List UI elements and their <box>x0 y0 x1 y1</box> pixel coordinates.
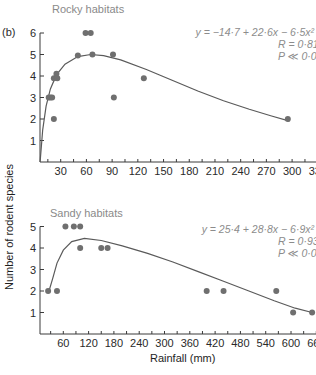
figure: (b) Rocky habitats y = −14·7 + 22·6x − 6… <box>0 0 316 375</box>
x-tick-label: 300 <box>283 165 301 177</box>
data-point <box>105 245 111 251</box>
x-tick-label: 540 <box>257 337 275 349</box>
y-tick-label: 2 <box>30 285 36 297</box>
rocky-p-value: P ≪ 0·01 <box>278 50 316 62</box>
y-tick-label: 5 <box>30 221 36 233</box>
sandy-fit-curve <box>49 238 312 312</box>
data-point <box>141 75 147 81</box>
sandy-axes: 1234560120180240300360420480540600660 <box>30 221 316 350</box>
sandy-data-points <box>45 224 315 316</box>
rocky-title: Rocky habitats <box>52 3 125 15</box>
x-tick-label: 240 <box>232 165 250 177</box>
y-tick-label: 3 <box>30 264 36 276</box>
data-point <box>71 224 77 230</box>
rocky-fit-curve <box>40 55 289 163</box>
data-point <box>51 116 57 122</box>
x-tick-label: 120 <box>129 165 147 177</box>
y-tick-label: 4 <box>30 242 36 254</box>
x-tick-label: 660 <box>307 337 316 349</box>
x-tick-label: 60 <box>57 337 69 349</box>
y-tick-label: 1 <box>30 307 36 319</box>
y-tick-label: 3 <box>30 92 36 104</box>
y-axis-title: Number of rodent species <box>3 164 15 290</box>
data-point <box>83 30 89 36</box>
data-point <box>309 310 315 316</box>
x-tick-label: 180 <box>105 337 123 349</box>
sandy-equation: y = 25·4 + 28·8x − 6·9x² <box>201 223 315 235</box>
y-tick-label: 4 <box>30 70 36 82</box>
data-point <box>89 52 95 58</box>
sandy-p-value: P ≪ 0·01 <box>278 247 316 259</box>
data-point <box>49 95 55 101</box>
data-point <box>62 224 68 230</box>
x-tick-label: 180 <box>180 165 198 177</box>
data-point <box>221 288 227 294</box>
x-axis-title: Rainfall (mm) <box>150 352 215 364</box>
rocky-data-points <box>46 30 291 122</box>
x-tick-label: 240 <box>130 337 148 349</box>
x-tick-label: 480 <box>231 337 249 349</box>
x-tick-label: 60 <box>80 165 92 177</box>
data-point <box>77 224 83 230</box>
x-tick-label: 420 <box>206 337 224 349</box>
x-tick-label: 360 <box>181 337 199 349</box>
rocky-axes: 123456306090120150180210240270300330 <box>30 27 316 177</box>
data-point <box>54 288 60 294</box>
x-tick-label: 120 <box>79 337 97 349</box>
y-tick-label: 6 <box>30 27 36 39</box>
x-tick-label: 600 <box>282 337 300 349</box>
data-point <box>204 288 210 294</box>
panel-label: (b) <box>2 26 15 38</box>
data-point <box>285 116 291 122</box>
data-point <box>111 95 117 101</box>
rocky-habitats-panel: Rocky habitats y = −14·7 + 22·6x − 6·5x²… <box>30 3 316 177</box>
x-tick-label: 150 <box>154 165 172 177</box>
data-point <box>98 245 104 251</box>
rocky-equation: y = −14·7 + 22·6x − 6·5x² <box>195 26 315 38</box>
x-tick-label: 30 <box>55 165 67 177</box>
y-tick-label: 2 <box>30 113 36 125</box>
x-tick-label: 210 <box>206 165 224 177</box>
x-tick-label: 90 <box>106 165 118 177</box>
rocky-r-value: R = 0·81 <box>278 38 316 50</box>
data-point <box>290 310 296 316</box>
data-point <box>75 53 81 59</box>
x-tick-label: 270 <box>257 165 275 177</box>
y-tick-label: 1 <box>30 135 36 147</box>
data-point <box>88 30 94 36</box>
sandy-title: Sandy habitats <box>50 207 123 219</box>
sandy-r-value: R = 0·93 <box>278 235 316 247</box>
x-tick-label: 330 <box>309 165 316 177</box>
sandy-habitats-panel: Sandy habitats y = 25·4 + 28·8x − 6·9x² … <box>30 207 316 349</box>
data-point <box>54 75 60 81</box>
data-point <box>273 288 279 294</box>
data-point <box>45 288 51 294</box>
x-tick-label: 300 <box>155 337 173 349</box>
data-point <box>77 245 83 251</box>
y-tick-label: 5 <box>30 49 36 61</box>
data-point <box>110 52 116 58</box>
